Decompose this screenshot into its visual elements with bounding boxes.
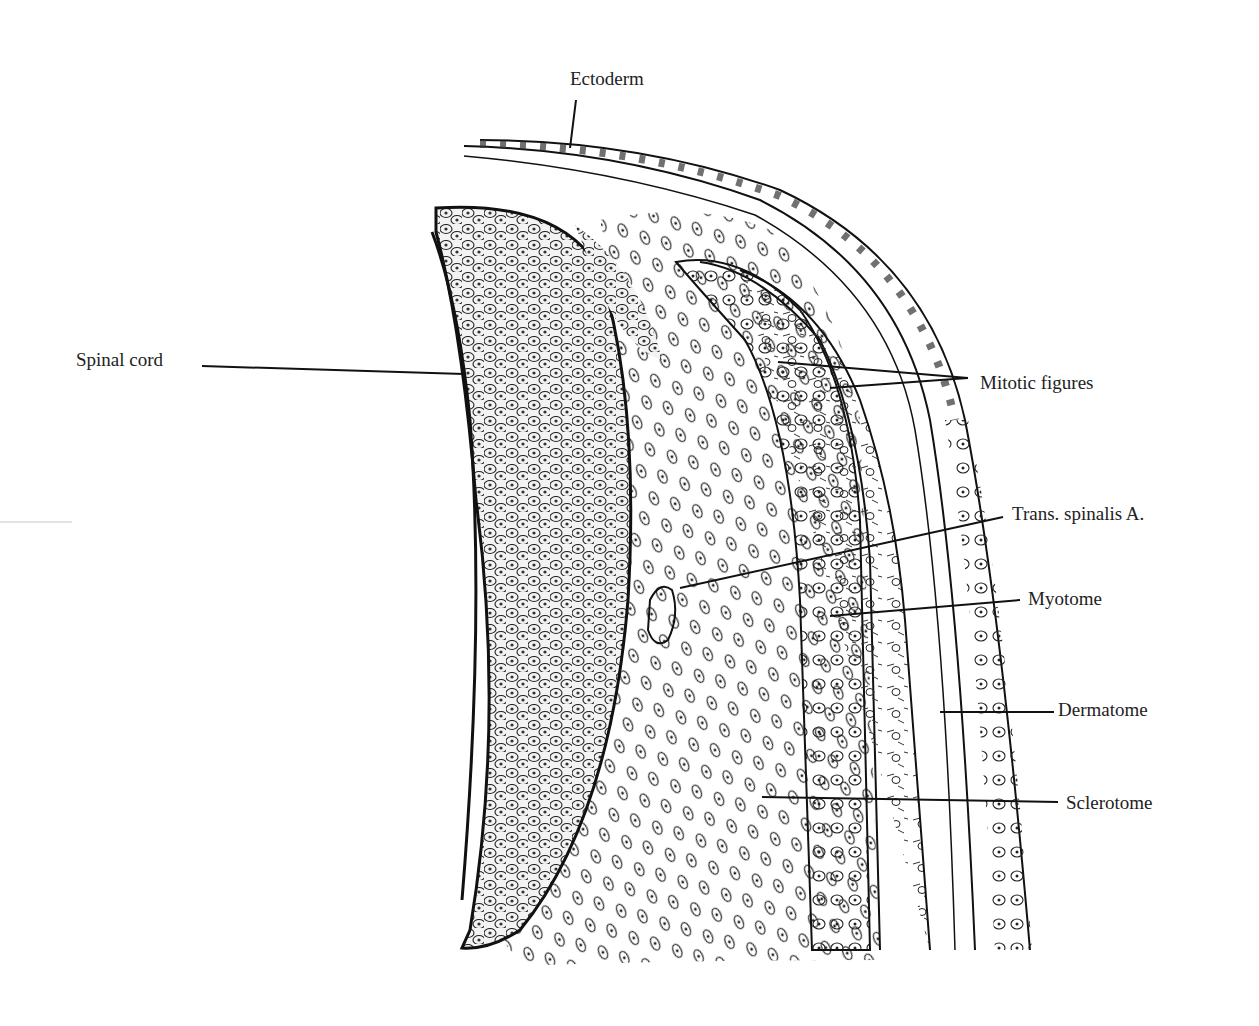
- label-sclerotome: Sclerotome: [1066, 792, 1153, 814]
- label-mitotic-figures: Mitotic figures: [980, 372, 1093, 394]
- label-dermatome: Dermatome: [1058, 699, 1148, 721]
- label-myotome: Myotome: [1028, 588, 1102, 610]
- label-spinal-cord: Spinal cord: [76, 349, 163, 371]
- label-ectoderm: Ectoderm: [570, 68, 644, 90]
- label-trans-spinalis-a: Trans. spinalis A.: [1012, 503, 1144, 525]
